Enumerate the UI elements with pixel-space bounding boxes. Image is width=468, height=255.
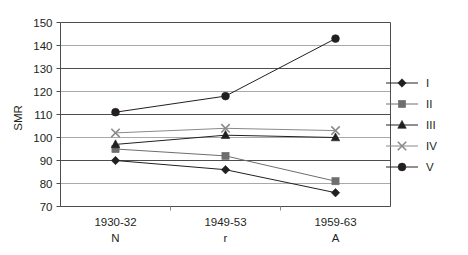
marker-circle bbox=[222, 92, 230, 100]
legend-item-II[interactable]: II bbox=[386, 98, 432, 110]
marker-square bbox=[332, 178, 339, 185]
x-tick-label: 1930-32 bbox=[94, 216, 136, 228]
data-series-group bbox=[111, 35, 339, 197]
legend-label: IV bbox=[426, 140, 437, 152]
legend-label: III bbox=[426, 119, 436, 131]
legend-label: I bbox=[426, 77, 429, 89]
legend-item-V[interactable]: V bbox=[386, 161, 434, 173]
marker-diamond bbox=[221, 166, 229, 174]
y-tick-label: 70 bbox=[40, 201, 53, 213]
legend-item-I[interactable]: I bbox=[386, 77, 429, 89]
line-chart: 150140130120110100908070 1930-32N1949-53… bbox=[0, 0, 468, 255]
y-tick-label: 120 bbox=[33, 86, 52, 98]
y-tick-label: 140 bbox=[33, 40, 52, 52]
marker-triangle bbox=[398, 120, 406, 128]
y-tick-labels-group: 150140130120110100908070 bbox=[33, 17, 52, 213]
marker-circle bbox=[398, 163, 406, 171]
chart-legend: IIIIIIIVV bbox=[386, 77, 437, 173]
marker-diamond bbox=[111, 156, 119, 164]
legend-item-III[interactable]: III bbox=[386, 119, 436, 131]
y-axis-title: SMR bbox=[12, 105, 24, 131]
y-tick-label: 110 bbox=[34, 109, 52, 121]
gridlines-group bbox=[61, 23, 391, 207]
y-tick-label: 100 bbox=[33, 132, 52, 144]
marker-diamond bbox=[398, 79, 406, 87]
series-I bbox=[111, 156, 339, 197]
series-V bbox=[112, 35, 340, 116]
y-tick-label: 80 bbox=[40, 178, 53, 190]
x-tick-labels-group: 1930-32N1949-53r1959-63A bbox=[94, 216, 356, 244]
marker-diamond bbox=[331, 189, 339, 197]
marker-square bbox=[398, 100, 405, 107]
series-III bbox=[111, 131, 339, 148]
x-tick-label: 1959-63 bbox=[314, 216, 356, 228]
legend-item-IV[interactable]: IV bbox=[386, 140, 437, 152]
legend-label: II bbox=[426, 98, 432, 110]
series-line bbox=[116, 39, 336, 113]
x-tick-sublabel: r bbox=[224, 232, 228, 244]
marker-circle bbox=[112, 108, 120, 116]
x-tick-sublabel: N bbox=[111, 232, 119, 244]
chart-container: 150140130120110100908070 1930-32N1949-53… bbox=[0, 0, 468, 255]
marker-square bbox=[222, 152, 229, 159]
y-tick-label: 90 bbox=[40, 155, 53, 167]
y-tick-label: 130 bbox=[33, 63, 52, 75]
marker-circle bbox=[332, 35, 340, 43]
legend-label: V bbox=[426, 161, 434, 173]
x-tick-sublabel: A bbox=[332, 232, 340, 244]
axes-group bbox=[57, 23, 391, 211]
x-tick-label: 1949-53 bbox=[204, 216, 246, 228]
y-tick-label: 150 bbox=[33, 17, 52, 29]
